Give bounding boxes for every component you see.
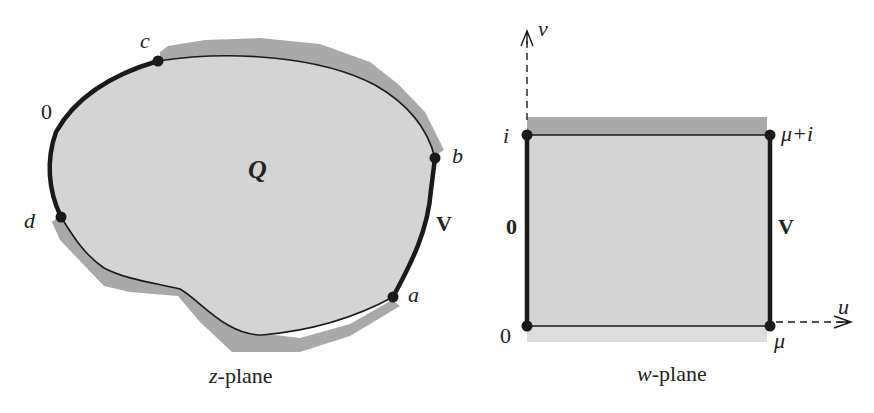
z-caption-rest: -plane (218, 363, 273, 388)
w-label-mu-plus-i: μ+i (780, 121, 813, 146)
w-label-mu: μ (773, 328, 785, 353)
w-corner-i (522, 130, 533, 141)
z-label-Q: Q (248, 155, 267, 184)
z-label-b: b (452, 143, 463, 168)
w-label-origin: 0 (500, 323, 511, 348)
w-plane-caption: w-plane (637, 361, 707, 386)
z-label-a: a (408, 282, 419, 307)
w-corner-mu-plus-i (765, 130, 776, 141)
z-plane-caption: z-plane (208, 363, 273, 388)
z-region-Q (50, 56, 435, 335)
w-caption-var: w (637, 361, 652, 386)
z-label-c: c (140, 28, 150, 53)
w-bottom-boundary-shade (527, 326, 767, 342)
z-point-d (56, 212, 67, 223)
z-label-d: d (24, 208, 36, 233)
w-corner-origin (522, 321, 533, 332)
z-caption-var: z (208, 363, 218, 388)
z-point-c (153, 56, 164, 67)
w-plane-diagram: v u i μ+i 0 μ 0 V w-plane (500, 16, 851, 386)
z-label-zero-arc: 0 (41, 99, 52, 124)
v-axis-label: v (538, 16, 548, 41)
w-top-boundary-shade (527, 117, 767, 135)
z-label-V-arc: V (436, 211, 452, 236)
u-axis-label: u (838, 294, 849, 319)
z-point-b (430, 153, 441, 164)
v-axis-arrowhead-icon (521, 31, 533, 46)
z-point-a (388, 292, 399, 303)
w-label-right-V: V (778, 214, 794, 239)
w-label-left-zero: 0 (506, 214, 517, 239)
z-plane-diagram: c b d a 0 V Q z-plane (24, 28, 463, 388)
w-label-i: i (503, 123, 509, 148)
w-region-rectangle (527, 135, 770, 326)
conformal-map-figure: c b d a 0 V Q z-plane (0, 0, 874, 413)
w-caption-rest: -plane (652, 361, 707, 386)
